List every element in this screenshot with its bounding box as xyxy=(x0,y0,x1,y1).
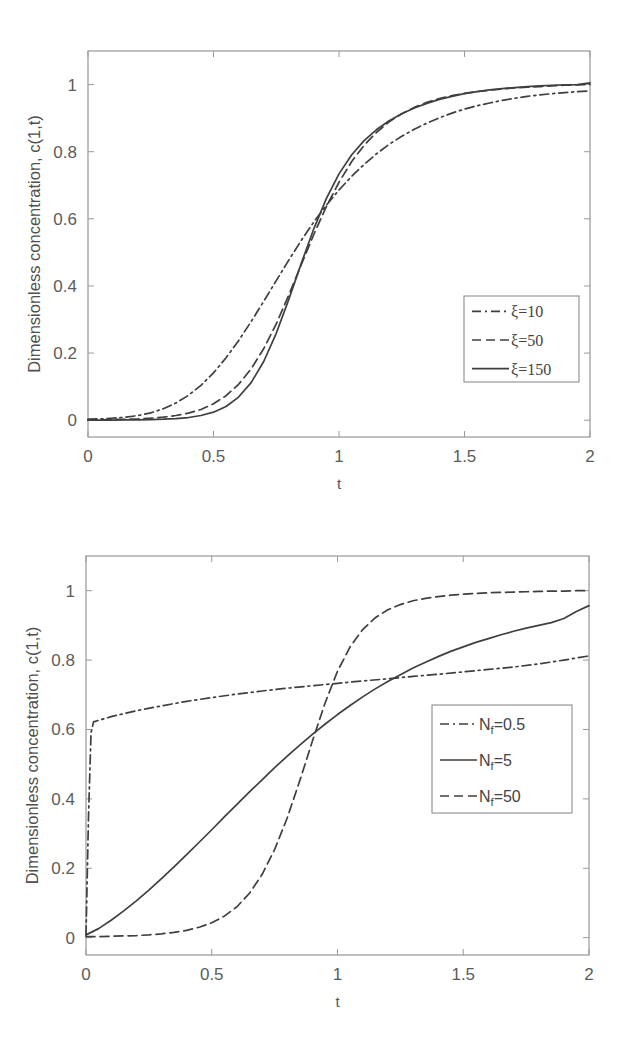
chart-svg-bottom: 00.511.5200.20.40.60.81tDimensionless co… xyxy=(0,520,623,1040)
legend-label-tail: =5 xyxy=(494,752,512,769)
plot-area-top: 00.511.5200.20.40.60.81tDimensionless co… xyxy=(25,51,595,492)
y-tick-label: 0 xyxy=(66,929,75,948)
plot-area-bottom: 00.511.5200.20.40.60.81tDimensionless co… xyxy=(23,556,594,1010)
x-tick-label: 0 xyxy=(83,447,92,466)
y-tick-label: 1 xyxy=(68,76,77,95)
y-tick-label: 0.8 xyxy=(53,143,77,162)
x-axis-title: t xyxy=(335,993,340,1010)
x-tick-label: 1 xyxy=(334,447,343,466)
x-axis-title: t xyxy=(337,475,342,492)
chart-panel-bottom: 00.511.5200.20.40.60.81tDimensionless co… xyxy=(0,520,623,1040)
x-tick-label: 0 xyxy=(81,965,90,984)
y-tick-label: 1 xyxy=(66,582,75,601)
y-tick-label: 0.6 xyxy=(51,720,75,739)
x-tick-label: 0.5 xyxy=(202,447,226,466)
legend-label-tail: =50 xyxy=(494,788,521,805)
legend-label-tail: =0.5 xyxy=(494,716,526,733)
legend-label-3: ξ=150 xyxy=(511,361,551,378)
y-tick-label: 0.4 xyxy=(51,790,75,809)
y-tick-label: 0.4 xyxy=(53,277,77,296)
y-tick-label: 0.8 xyxy=(51,651,75,670)
x-tick-label: 2 xyxy=(584,965,593,984)
x-tick-label: 0.5 xyxy=(200,965,224,984)
x-tick-label: 2 xyxy=(585,447,594,466)
chart-panel-top: 00.511.5200.20.40.60.81tDimensionless co… xyxy=(0,0,623,520)
legend-label-2: ξ=50 xyxy=(511,332,543,349)
y-tick-label: 0.6 xyxy=(53,210,77,229)
y-axis-title: Dimensionless concentration, c(1,t) xyxy=(25,115,43,373)
chart-svg-top: 00.511.5200.20.40.60.81tDimensionless co… xyxy=(0,0,623,520)
x-tick-label: 1 xyxy=(333,965,342,984)
x-tick-label: 1.5 xyxy=(453,447,477,466)
legend-label-base: N xyxy=(479,788,491,805)
legend-label-base: N xyxy=(479,716,491,733)
y-tick-label: 0.2 xyxy=(51,859,75,878)
y-axis-title: Dimensionless concentration, c(1,t) xyxy=(23,627,41,885)
y-tick-label: 0.2 xyxy=(53,344,77,363)
legend-label-1: ξ=10 xyxy=(511,303,543,320)
x-tick-label: 1.5 xyxy=(451,965,475,984)
legend-label-base: N xyxy=(479,752,491,769)
y-tick-label: 0 xyxy=(68,411,77,430)
figure-root: 00.511.5200.20.40.60.81tDimensionless co… xyxy=(0,0,623,1040)
